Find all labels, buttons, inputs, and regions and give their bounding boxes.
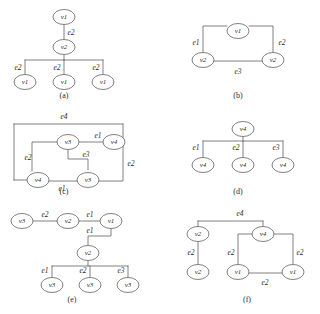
panel-caption-e: (e) (68, 295, 77, 304)
figure-root: e2e2e2e2v1v2v1v1v1(a)e1e2e3v1v2v2(b)e4e1… (0, 0, 320, 314)
d-edge-e2-label: e2 (232, 143, 239, 152)
panel-caption-f: (f) (243, 295, 251, 304)
panel-f: e4e2e2e2e2v2v2v4v1v1(f) (187, 209, 304, 304)
a-root-label: v1 (61, 13, 68, 21)
node-c-top-right[interactable]: v4 (103, 135, 125, 150)
d-leaf2-label: v4 (240, 161, 247, 169)
node-e-leaf2[interactable]: v3 (79, 278, 101, 293)
edge-d-edge-e3[interactable]: e3 (272, 141, 283, 157)
f-edge-e2-right-label: e2 (296, 248, 303, 257)
node-f-left-bottom[interactable]: v2 (187, 265, 209, 280)
node-a-root[interactable]: v1 (53, 10, 75, 25)
node-c-bottom-right[interactable]: v3 (77, 173, 99, 188)
c-edge-outer-e4-label: e4 (60, 112, 67, 121)
node-f-left-top[interactable]: v2 (187, 227, 209, 242)
edge-e-edge-e3-leaf[interactable]: e3 (117, 266, 128, 277)
f-edge-e2-bottom-label: e2 (261, 278, 268, 287)
f-left-top-label: v2 (195, 230, 202, 238)
node-d-root[interactable]: v4 (232, 122, 254, 137)
panel-caption-c: (c) (60, 187, 69, 196)
d-leaf1-label: v4 (200, 161, 207, 169)
node-e-leaf3[interactable]: v3 (117, 278, 139, 293)
node-d-leaf1[interactable]: v4 (192, 158, 214, 173)
edge-f-edge-e2-mid[interactable]: e2 (227, 234, 252, 264)
f-left-bottom-label: v2 (195, 268, 202, 276)
c-edge-e1-top-label: e1 (94, 131, 101, 140)
edge-f-edge-e2-bottom[interactable]: e2 (249, 273, 282, 287)
edge-d-edge-e2[interactable]: e2 (232, 141, 243, 157)
e-leaf1-label: v3 (49, 281, 56, 289)
node-e-chain-right[interactable]: v1 (100, 214, 122, 229)
edge-f-edge-e2-right[interactable]: e2 (274, 234, 304, 264)
b-bottom-right-label: v2 (270, 56, 277, 64)
e-chain-mid-label: v2 (65, 217, 72, 225)
panels-group: e2e2e2e2v1v2v1v1v1(a)e1e2e3v1v2v2(b)e4e1… (11, 10, 304, 304)
edge-f-edge-e2-left[interactable]: e2 (187, 242, 198, 264)
panel-b: e1e2e3v1v2v2(b) (192, 24, 286, 100)
node-b-bottom-left[interactable]: v2 (192, 53, 214, 68)
node-d-leaf2[interactable]: v4 (232, 158, 254, 173)
node-f-right-bottom[interactable]: v1 (282, 265, 304, 280)
f-edge-e4-label: e4 (236, 209, 243, 218)
edge-e-edge-e2-leaf[interactable]: e2 (79, 266, 90, 277)
node-b-top[interactable]: v1 (227, 24, 249, 39)
node-f-mid-bottom[interactable]: v1 (227, 265, 249, 280)
d-root-label: v4 (240, 125, 247, 133)
a-leaf2-label: v1 (61, 78, 68, 86)
node-e-chain-left[interactable]: v3 (11, 214, 33, 229)
edge-c-edge-e1-top[interactable]: e1 (79, 131, 103, 142)
node-c-bottom-left[interactable]: v4 (27, 173, 49, 188)
edge-e-edge-e1-chain[interactable]: e1 (79, 210, 100, 221)
panel-caption-d: (d) (233, 187, 243, 196)
node-e-hub[interactable]: v2 (77, 246, 99, 261)
a-mid-label: v2 (61, 43, 68, 51)
a-leaf3-label: v1 (100, 78, 107, 86)
e-edge-e1-chain-label: e1 (86, 210, 93, 219)
f-edge-e4-line (198, 221, 263, 226)
edge-e-edge-e1-down[interactable]: e1 (86, 226, 111, 245)
b-top-label: v1 (235, 27, 242, 35)
a-edge-root-mid-label: e2 (67, 28, 74, 37)
node-b-bottom-right[interactable]: v2 (262, 53, 284, 68)
panel-e: e2e1e1e1e2e3v3v2v1v2v3v3v3(e) (11, 210, 139, 304)
c-bottom-right-label: v3 (85, 176, 92, 184)
edge-a-edge-mid-leaf3[interactable]: e2 (92, 60, 103, 74)
edge-a-edge-mid-leaf2[interactable]: e2 (53, 60, 64, 74)
c-edge-e2-left-label: e2 (24, 153, 31, 162)
panel-d: e1e2e3v4v4v4v4(d) (192, 122, 294, 196)
edge-e-edge-e2-chain[interactable]: e2 (33, 210, 57, 221)
edge-c-edge-e3[interactable]: e3 (68, 150, 90, 170)
a-leaf1-label: v1 (22, 78, 29, 86)
graph-figure-canvas: e2e2e2e2v1v2v1v1v1(a)e1e2e3v1v2v2(b)e4e1… (0, 0, 320, 314)
a-edge-mid-leaf2-label: e2 (53, 63, 60, 72)
b-edge-left-line (203, 26, 227, 52)
c-top-left-label: v3 (65, 138, 72, 146)
b-bottom-left-label: v2 (200, 56, 207, 64)
node-e-leaf1[interactable]: v3 (41, 278, 63, 293)
b-edge-right-label: e2 (278, 38, 285, 47)
edge-a-edge-root-mid[interactable]: e2 (64, 25, 75, 39)
edge-f-edge-e4[interactable]: e4 (198, 209, 263, 226)
panel-caption-b: (b) (233, 91, 243, 100)
edge-b-edge-bottom[interactable]: e3 (214, 61, 262, 76)
node-a-leaf2[interactable]: v1 (53, 75, 75, 90)
c-edge-e3-label: e3 (82, 150, 89, 159)
node-d-leaf3[interactable]: v4 (272, 158, 294, 173)
edge-b-edge-left[interactable]: e1 (192, 26, 227, 52)
e-edge-e2-leaf-label: e2 (79, 266, 86, 275)
node-e-chain-mid[interactable]: v2 (57, 214, 79, 229)
a-edge-mid-leaf1-label: e2 (14, 63, 21, 72)
node-a-leaf1[interactable]: v1 (14, 75, 36, 90)
b-edge-right-line (249, 26, 273, 52)
edge-b-edge-right[interactable]: e2 (249, 26, 286, 52)
node-c-top-left[interactable]: v3 (57, 135, 79, 150)
edge-c-edge-e2-left[interactable]: e2 (24, 142, 57, 171)
e-hub-label: v2 (85, 249, 92, 257)
e-chain-left-label: v3 (19, 217, 26, 225)
node-f-hub[interactable]: v4 (252, 227, 274, 242)
b-edge-left-label: e1 (192, 38, 199, 47)
node-a-mid[interactable]: v2 (53, 40, 75, 55)
node-a-leaf3[interactable]: v1 (92, 75, 114, 90)
f-right-bottom-label: v1 (290, 268, 297, 276)
f-hub-label: v4 (260, 230, 267, 238)
